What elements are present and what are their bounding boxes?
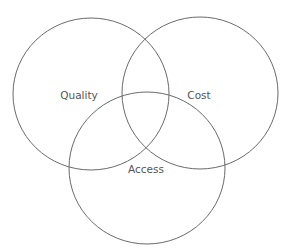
access-label: Access <box>128 163 164 175</box>
venn-diagram: Quality Cost Access <box>0 0 291 252</box>
cost-label: Cost <box>187 89 210 101</box>
quality-label: Quality <box>60 89 98 101</box>
